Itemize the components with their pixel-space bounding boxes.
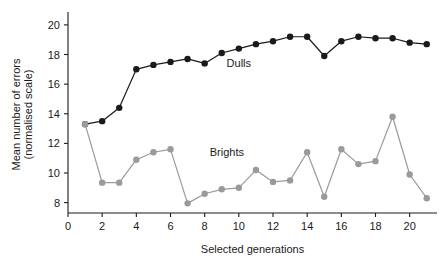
data-point xyxy=(304,34,310,40)
data-point xyxy=(355,161,361,167)
y-tick-label: 12 xyxy=(48,137,60,149)
data-point xyxy=(321,194,327,200)
series-annotations: DullsBrights xyxy=(210,57,252,158)
data-point xyxy=(201,191,207,197)
series-brights xyxy=(82,114,430,207)
data-point xyxy=(406,171,412,177)
data-point xyxy=(150,62,156,68)
x-axis-title: Selected generations xyxy=(201,243,305,255)
data-point xyxy=(338,38,344,44)
data-point xyxy=(406,39,412,45)
data-point xyxy=(219,50,225,56)
data-point xyxy=(424,41,430,47)
data-point xyxy=(236,45,242,51)
line-chart: 8101214161820 02468101214161820 DullsBri… xyxy=(0,0,446,261)
data-point xyxy=(389,114,395,120)
data-point xyxy=(167,146,173,152)
data-point xyxy=(133,156,139,162)
data-point xyxy=(355,34,361,40)
data-point xyxy=(304,149,310,155)
chart-container: 8101214161820 02468101214161820 DullsBri… xyxy=(0,0,446,261)
data-point xyxy=(321,53,327,59)
data-point xyxy=(287,34,293,40)
x-tick-label: 18 xyxy=(369,220,381,232)
data-point xyxy=(372,35,378,41)
x-tick-label: 16 xyxy=(335,220,347,232)
y-tick-label: 18 xyxy=(48,49,60,61)
x-tick-label: 20 xyxy=(404,220,416,232)
data-point xyxy=(236,185,242,191)
y-axis-title-line2: (normalised scale) xyxy=(22,70,34,160)
data-point xyxy=(270,38,276,44)
data-point xyxy=(253,167,259,173)
y-tick-label: 20 xyxy=(48,19,60,31)
series-label-brights: Brights xyxy=(210,146,245,158)
x-tick-label: 10 xyxy=(233,220,245,232)
x-tick-label: 12 xyxy=(267,220,279,232)
data-point xyxy=(82,121,88,127)
x-tick-label: 4 xyxy=(133,220,139,232)
data-point xyxy=(167,59,173,65)
data-point xyxy=(116,105,122,111)
data-point xyxy=(116,179,122,185)
data-point xyxy=(99,118,105,124)
x-tick-label: 0 xyxy=(65,220,71,232)
data-point xyxy=(201,60,207,66)
series-dulls xyxy=(82,34,430,128)
y-tick-label: 16 xyxy=(48,78,60,90)
data-point xyxy=(424,195,430,201)
data-point xyxy=(184,200,190,206)
y-tick-label: 10 xyxy=(48,167,60,179)
data-point xyxy=(184,56,190,62)
data-point xyxy=(150,149,156,155)
data-point xyxy=(372,158,378,164)
y-axis-title-line1: Mean number of errors xyxy=(10,58,22,170)
x-tick-label: 14 xyxy=(301,220,313,232)
data-point xyxy=(99,179,105,185)
y-tick-labels: 8101214161820 xyxy=(48,19,60,209)
data-point xyxy=(253,41,259,47)
data-point xyxy=(287,177,293,183)
data-point xyxy=(219,186,225,192)
data-point xyxy=(338,146,344,152)
data-point xyxy=(270,179,276,185)
series-layer xyxy=(82,34,430,207)
x-tick-labels: 02468101214161820 xyxy=(65,220,416,232)
y-tick-label: 14 xyxy=(48,108,60,120)
x-tick-label: 8 xyxy=(202,220,208,232)
x-tick-label: 2 xyxy=(99,220,105,232)
data-point xyxy=(133,66,139,72)
series-label-dulls: Dulls xyxy=(227,57,252,69)
y-tick-label: 8 xyxy=(54,197,60,209)
data-point xyxy=(389,35,395,41)
x-tick-label: 6 xyxy=(167,220,173,232)
